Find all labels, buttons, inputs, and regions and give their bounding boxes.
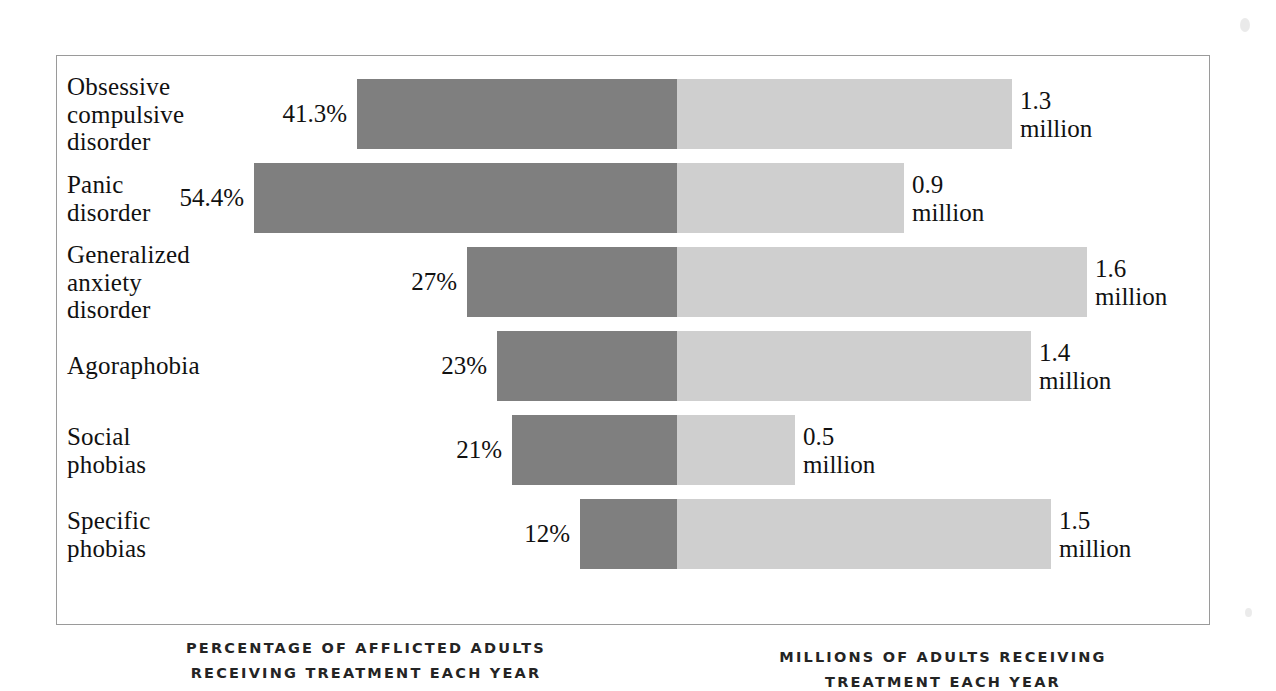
bar-millions (677, 499, 1051, 569)
bar-percentage (357, 79, 677, 149)
caption-left-line-2: RECEIVING TREATMENT EACH YEAR (56, 661, 676, 686)
bar-millions (677, 415, 795, 485)
value-label-millions: 0.9 million (912, 171, 984, 226)
scan-speck (1240, 18, 1250, 32)
value-label-percentage: 23% (441, 352, 487, 380)
value-label-percentage: 41.3% (282, 100, 347, 128)
value-label-percentage: 27% (411, 268, 457, 296)
bar-percentage (254, 163, 677, 233)
chart-row: Agoraphobia23%1.4 million (57, 331, 1209, 401)
scan-speck (1245, 608, 1252, 617)
chart-row: Panic disorder54.4%0.9 million (57, 163, 1209, 233)
category-label: Panic disorder (67, 171, 151, 226)
bar-millions (677, 79, 1012, 149)
category-label: Agoraphobia (67, 352, 200, 380)
value-label-millions: 1.3 million (1020, 87, 1092, 142)
category-label: Social phobias (67, 423, 146, 478)
category-label: Obsessive compulsive disorder (67, 73, 184, 156)
bar-percentage (467, 247, 677, 317)
chart-row: Social phobias21%0.5 million (57, 415, 1209, 485)
chart-row: Generalized anxiety disorder27%1.6 milli… (57, 247, 1209, 317)
category-label: Generalized anxiety disorder (67, 241, 190, 324)
caption-left-line-1: PERCENTAGE OF AFFLICTED ADULTS (56, 636, 676, 661)
chart-row: Obsessive compulsive disorder41.3%1.3 mi… (57, 79, 1209, 149)
bar-millions (677, 331, 1031, 401)
caption-right-line-2: TREATMENT EACH YEAR (676, 670, 1210, 691)
chart-row: Specific phobias12%1.5 million (57, 499, 1209, 569)
x-axis-caption-left: PERCENTAGE OF AFFLICTED ADULTS RECEIVING… (56, 636, 676, 687)
bar-millions (677, 247, 1087, 317)
value-label-percentage: 12% (524, 520, 570, 548)
x-axis-caption-right: MILLIONS OF ADULTS RECEIVING TREATMENT E… (676, 645, 1210, 691)
bar-percentage (512, 415, 677, 485)
bar-millions (677, 163, 904, 233)
value-label-millions: 0.5 million (803, 423, 875, 478)
plot-area: Obsessive compulsive disorder41.3%1.3 mi… (56, 55, 1210, 625)
value-label-millions: 1.4 million (1039, 339, 1111, 394)
caption-right-line-1: MILLIONS OF ADULTS RECEIVING (676, 645, 1210, 670)
category-label: Specific phobias (67, 507, 151, 562)
value-label-percentage: 21% (456, 436, 502, 464)
value-label-millions: 1.5 million (1059, 507, 1131, 562)
value-label-percentage: 54.4% (179, 184, 244, 212)
value-label-millions: 1.6 million (1095, 255, 1167, 310)
bar-percentage (497, 331, 677, 401)
bar-percentage (580, 499, 677, 569)
